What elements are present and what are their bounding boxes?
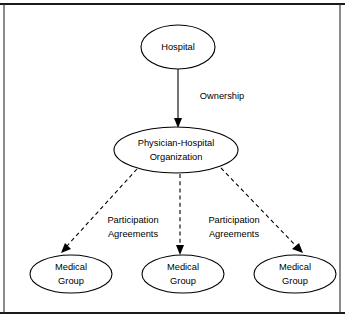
node-medical-group-center-label-line1: Medical bbox=[167, 262, 199, 272]
node-medical-group-center-shape[interactable] bbox=[142, 255, 224, 293]
node-medical-group-left[interactable]: Medical Group bbox=[30, 255, 112, 293]
edge-label-participation-left: Participation Agreements bbox=[107, 215, 158, 239]
node-medical-group-right-shape[interactable] bbox=[254, 255, 336, 293]
edge-ownership bbox=[174, 69, 182, 128]
node-medical-group-left-label-line2: Group bbox=[58, 276, 84, 286]
edge-participation-left bbox=[61, 169, 137, 253]
node-hospital-label: Hospital bbox=[161, 42, 195, 52]
node-physician-hospital-organization-label-line2: Organization bbox=[150, 152, 203, 162]
edge-label-ownership: Ownership bbox=[200, 91, 244, 101]
edge-label-participation-left-line2: Agreements bbox=[108, 229, 158, 239]
node-medical-group-left-shape[interactable] bbox=[30, 255, 112, 293]
node-physician-hospital-organization-label-line1: Physician-Hospital bbox=[138, 138, 214, 148]
node-medical-group-left-label-line1: Medical bbox=[55, 262, 87, 272]
node-physician-hospital-organization[interactable]: Physician-Hospital Organization bbox=[114, 127, 238, 173]
node-medical-group-center-label-line2: Group bbox=[170, 276, 196, 286]
edge-participation-center-arrowhead bbox=[176, 245, 184, 255]
node-layer: Hospital Physician-Hospital Organization… bbox=[30, 25, 336, 293]
edge-label-participation-right-line1: Participation bbox=[208, 215, 259, 225]
node-medical-group-right-label-line1: Medical bbox=[279, 262, 311, 272]
edge-label-participation-left-line1: Participation bbox=[107, 215, 158, 225]
edge-participation-left-arrowhead bbox=[61, 243, 71, 253]
node-medical-group-center[interactable]: Medical Group bbox=[142, 255, 224, 293]
org-relationship-diagram: Ownership Participation Agreements Parti… bbox=[0, 0, 345, 320]
node-medical-group-right-label-line2: Group bbox=[282, 276, 308, 286]
edge-participation-right bbox=[221, 168, 303, 253]
diagram-canvas: Ownership Participation Agreements Parti… bbox=[0, 0, 345, 320]
node-medical-group-right[interactable]: Medical Group bbox=[254, 255, 336, 293]
node-physician-hospital-organization-shape[interactable] bbox=[114, 127, 238, 173]
edge-participation-center bbox=[176, 174, 184, 255]
edge-label-participation-right-line2: Agreements bbox=[209, 229, 259, 239]
edge-participation-right-arrowhead bbox=[292, 243, 303, 253]
node-hospital[interactable]: Hospital bbox=[141, 25, 215, 69]
edge-label-participation-right: Participation Agreements bbox=[208, 215, 259, 239]
